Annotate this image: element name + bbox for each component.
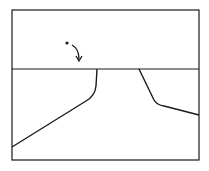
dot-marker bbox=[65, 41, 68, 44]
right-boundary-line bbox=[139, 69, 199, 115]
curved-arrow-icon bbox=[72, 45, 79, 59]
outer-frame bbox=[12, 10, 199, 160]
left-boundary-line bbox=[12, 69, 97, 147]
line-diagram bbox=[0, 0, 209, 171]
